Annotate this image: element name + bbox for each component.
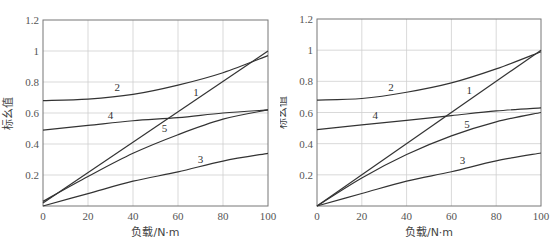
curve-2: [43, 56, 268, 101]
curve-label-3: 3: [460, 154, 466, 166]
y-tick-label: 1.2: [25, 14, 39, 26]
x-axis-label: 负载/N·m: [131, 225, 179, 239]
y-tick-label: 1: [34, 45, 40, 57]
curve-label-4: 4: [108, 109, 114, 121]
chart-right: 0204060801000.20.40.60.811.2负载/N·m标幺值123…: [280, 0, 559, 244]
y-tick-label: 0.2: [25, 169, 39, 181]
y-tick-label: 0.6: [25, 107, 39, 119]
y-axis-label: 标幺值: [280, 96, 289, 129]
x-tick-label: 20: [83, 210, 95, 222]
curve-label-3: 3: [198, 153, 204, 165]
x-tick-labels: 020406080100: [40, 210, 277, 222]
x-tick-label: 20: [356, 210, 368, 222]
x-tick-labels: 020406080100: [314, 210, 550, 222]
y-tick-label: 1.2: [299, 13, 313, 25]
y-tick-label: 0.2: [299, 169, 313, 181]
curve-label-2: 2: [388, 81, 394, 93]
x-axis-label: 负载/N·m: [405, 225, 453, 239]
curves: 12345: [317, 50, 541, 206]
y-tick-label: 0.4: [299, 138, 313, 150]
x-tick-label: 40: [128, 210, 140, 222]
y-tick-label: 0.8: [299, 75, 313, 87]
chart-left: 0204060801000.20.40.60.811.2负载/N·m标幺值123…: [0, 0, 280, 244]
x-tick-label: 40: [401, 210, 413, 222]
y-tick-label: 0.4: [25, 138, 39, 150]
curve-2: [317, 52, 541, 100]
curve-label-2: 2: [115, 81, 121, 93]
curve-label-5: 5: [464, 118, 470, 130]
x-tick-label: 60: [446, 210, 458, 222]
y-tick-labels: 0.20.40.60.811.2: [299, 13, 313, 181]
curve-label-5: 5: [162, 122, 168, 134]
x-tick-label: 0: [314, 210, 320, 222]
curve-5: [43, 110, 268, 201]
curve-label-1: 1: [467, 84, 473, 96]
y-tick-label: 0.6: [299, 107, 313, 119]
x-tick-label: 60: [173, 210, 185, 222]
x-tick-label: 80: [218, 210, 230, 222]
x-tick-label: 80: [491, 210, 503, 222]
grid-lines: [317, 19, 541, 206]
y-axis-label: 标幺值: [1, 97, 15, 130]
x-tick-label: 100: [260, 210, 277, 222]
x-tick-label: 100: [533, 210, 550, 222]
curve-1: [317, 50, 541, 206]
x-tick-label: 0: [40, 210, 46, 222]
curve-3: [317, 153, 541, 206]
y-tick-label: 1: [308, 44, 314, 56]
curve-label-1: 1: [193, 86, 199, 98]
curve-label-4: 4: [372, 109, 378, 121]
y-tick-label: 0.8: [25, 76, 39, 88]
y-tick-labels: 0.20.40.60.811.2: [25, 14, 39, 181]
grid-lines: [43, 20, 268, 206]
curves: 12345: [43, 51, 268, 206]
